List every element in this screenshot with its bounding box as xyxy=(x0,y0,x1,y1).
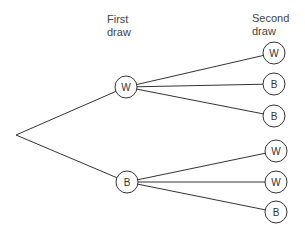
second-draw-node-b: B xyxy=(265,201,287,223)
node-label: B xyxy=(271,79,278,90)
branch-first-1-to-second-2 xyxy=(137,84,263,87)
first-draw-node-b: B xyxy=(116,171,138,193)
second-draw-node-w: W xyxy=(265,140,287,162)
node-label: W xyxy=(271,146,281,157)
branch-first-2-to-second-1 xyxy=(138,153,265,180)
node-label: W xyxy=(271,177,281,188)
branch-first-1-to-second-1 xyxy=(137,55,264,84)
branch-root-to-first-2 xyxy=(16,135,117,178)
node-label: B xyxy=(124,177,131,188)
second-draw-node-w: W xyxy=(263,42,285,64)
nodes: WWBBBWWB xyxy=(115,42,287,223)
second-draw-node-b: B xyxy=(263,105,285,127)
branch-root-to-first-1 xyxy=(16,91,116,135)
probability-tree: WWBBBWWB xyxy=(0,0,305,241)
branch-first-2-to-second-3 xyxy=(138,184,265,210)
first-draw-node-w: W xyxy=(115,76,137,98)
second-draw-node-w: W xyxy=(265,171,287,193)
node-label: B xyxy=(273,207,280,218)
node-label: B xyxy=(271,111,278,122)
branches xyxy=(16,55,265,209)
second-draw-node-b: B xyxy=(263,73,285,95)
branch-first-1-to-second-3 xyxy=(137,89,263,114)
node-label: W xyxy=(121,82,131,93)
node-label: W xyxy=(269,48,279,59)
